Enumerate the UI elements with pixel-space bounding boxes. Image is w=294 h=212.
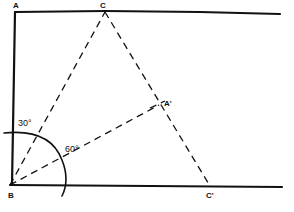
edge-bottom [10, 185, 282, 187]
fold-line-CCprime [105, 12, 210, 186]
fold-line-BAprime [10, 105, 159, 185]
edge-left [12, 12, 15, 185]
label-C: C [100, 1, 106, 10]
label-A: A [13, 1, 19, 10]
edge-top [15, 11, 280, 14]
label-angle-30: 30° [18, 118, 32, 128]
label-angle-60: 60° [65, 144, 79, 154]
fold-diagram: A C B A' C' 30° 60° [0, 0, 294, 212]
label-B: B [8, 191, 14, 200]
label-A-prime: A' [164, 99, 172, 108]
label-C-prime: C' [206, 191, 214, 200]
